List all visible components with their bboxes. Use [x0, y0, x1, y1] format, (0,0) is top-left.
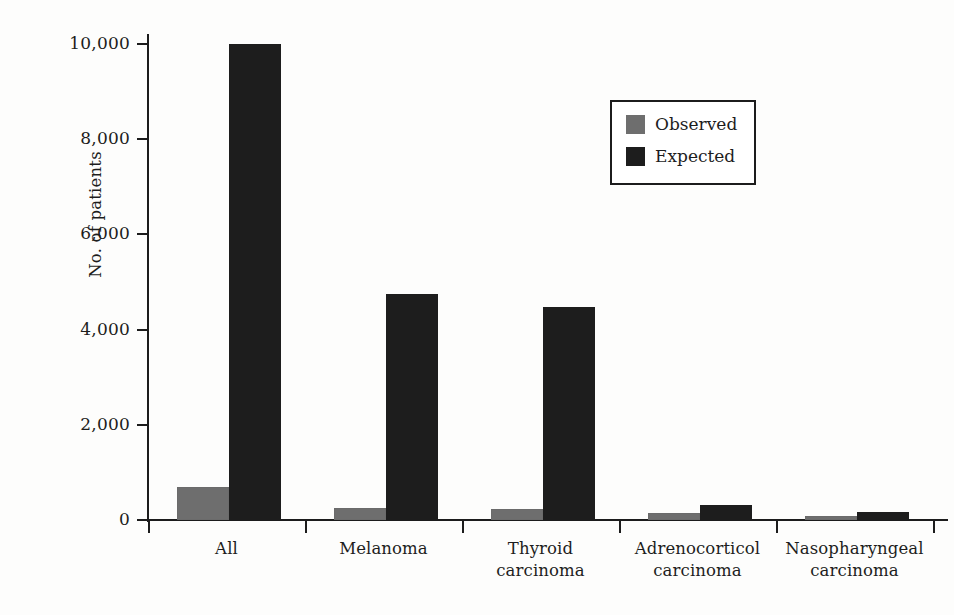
y-tick-label-2000: 2,000: [10, 416, 130, 433]
y-tick-label-wrap-10000: 10,000: [0, 35, 130, 52]
bar-expected-3: [700, 505, 752, 520]
y-tick-4000: [137, 329, 148, 331]
x-category-label-1: Melanoma: [295, 538, 472, 560]
y-tick-10000: [137, 43, 148, 45]
x-tick-2: [462, 520, 464, 533]
y-tick-label-wrap-2000: 2,000: [0, 416, 130, 433]
legend-swatch-observed: [626, 115, 645, 134]
bar-observed-3: [648, 513, 700, 520]
bar-observed-1: [334, 508, 386, 520]
legend-swatch-expected: [626, 147, 645, 166]
x-tick-3: [619, 520, 621, 533]
x-category-label-line1-0: All: [215, 539, 238, 558]
y-tick-label-10000: 10,000: [10, 35, 130, 52]
bar-expected-4: [857, 512, 909, 520]
x-tick-5: [933, 520, 935, 533]
bar-observed-0: [177, 487, 229, 520]
y-tick-0: [137, 519, 148, 521]
bar-expected-1: [386, 294, 438, 520]
x-tick-0: [148, 520, 150, 533]
legend-item-observed: Observed: [626, 115, 737, 134]
y-tick-label-wrap-0: 0: [0, 511, 130, 528]
x-category-label-0: All: [138, 538, 315, 560]
plot-area: [148, 44, 948, 520]
x-category-label-line1-2: Thyroid: [508, 539, 573, 558]
legend-label-expected: Expected: [655, 147, 735, 166]
x-category-label-3: Adrenocorticolcarcinoma: [609, 538, 786, 582]
bar-observed-2: [491, 509, 543, 520]
y-tick-2000: [137, 424, 148, 426]
x-category-label-line1-4: Nasopharyngeal: [785, 539, 923, 558]
y-tick-label-wrap-4000: 4,000: [0, 321, 130, 338]
x-category-label-line2-2: carcinoma: [452, 560, 629, 582]
x-category-label-4: Nasopharyngealcarcinoma: [766, 538, 943, 582]
y-tick-label-4000: 4,000: [10, 321, 130, 338]
y-tick-label-wrap-8000: 8,000: [0, 130, 130, 147]
x-tick-1: [305, 520, 307, 533]
legend-item-expected: Expected: [626, 147, 735, 166]
y-tick-label-wrap-6000: 6,000: [0, 225, 130, 242]
x-category-label-line1-3: Adrenocorticol: [635, 539, 761, 558]
figure-canvas: No. of patients 02,0004,0006,0008,00010,…: [0, 0, 954, 615]
y-tick-8000: [137, 138, 148, 140]
bar-expected-2: [543, 307, 595, 520]
bar-expected-0: [229, 44, 281, 520]
bar-observed-4: [805, 516, 857, 520]
x-category-label-line2-3: carcinoma: [609, 560, 786, 582]
y-tick-label-6000: 6,000: [10, 225, 130, 242]
x-tick-4: [776, 520, 778, 533]
y-tick-6000: [137, 233, 148, 235]
y-tick-label-8000: 8,000: [10, 130, 130, 147]
x-category-label-2: Thyroidcarcinoma: [452, 538, 629, 582]
x-category-label-line1-1: Melanoma: [339, 539, 428, 558]
y-tick-label-0: 0: [10, 511, 130, 528]
x-category-label-line2-4: carcinoma: [766, 560, 943, 582]
chart-legend: Observed Expected: [610, 100, 756, 185]
legend-label-observed: Observed: [655, 115, 737, 134]
